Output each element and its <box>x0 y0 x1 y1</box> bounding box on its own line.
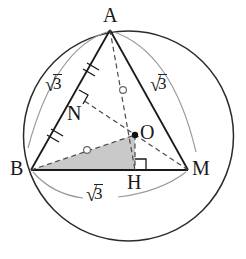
geometry-figure <box>0 0 246 259</box>
label-H: H <box>127 172 141 192</box>
sqrt-value-bm: 3 <box>94 184 104 202</box>
right-angle-at-H <box>135 159 146 170</box>
label-B: B <box>10 158 23 178</box>
label-N: N <box>67 103 81 123</box>
tick-NB <box>47 129 63 142</box>
label-M: M <box>192 158 210 178</box>
angle-marker-AO <box>120 87 127 94</box>
arc-measure-AB <box>28 31 110 148</box>
point-O-dot <box>132 132 138 138</box>
diagram-canvas: A B M O H N √3 √3 √3 <box>0 0 246 259</box>
angle-marker-BO <box>84 147 91 154</box>
label-O: O <box>140 122 154 142</box>
measure-BM: √3 <box>86 184 103 204</box>
label-A: A <box>103 5 117 25</box>
measure-AB: √3 <box>45 74 62 94</box>
sqrt-value-ab: 3 <box>53 74 63 92</box>
sqrt-value-am: 3 <box>158 74 168 92</box>
measure-AM: √3 <box>150 74 167 94</box>
